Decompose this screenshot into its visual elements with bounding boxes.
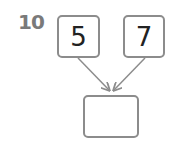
answer-box[interactable] <box>83 95 139 138</box>
input-box-right: 7 <box>123 15 165 58</box>
arrow-left <box>78 58 109 90</box>
input-box-left: 5 <box>57 15 100 58</box>
arrow-right <box>114 58 145 90</box>
